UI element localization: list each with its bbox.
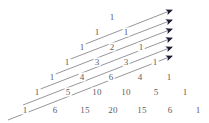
pascal-cell: 1 bbox=[152, 58, 159, 67]
pascal-cell: 1 bbox=[22, 106, 29, 115]
pascal-cell: 10 bbox=[91, 88, 102, 97]
pascal-cell: 3 bbox=[123, 58, 130, 67]
pascal-cell: 5 bbox=[153, 88, 160, 97]
pascals-triangle-figure: 111121133114641151010511615201561 bbox=[0, 0, 209, 123]
pascal-cell: 6 bbox=[167, 106, 174, 115]
pascal-cell: 4 bbox=[79, 73, 86, 82]
diagonal-arrow-2 bbox=[68, 20, 172, 60]
pascal-cell: 1 bbox=[109, 13, 116, 22]
pascal-cell: 1 bbox=[64, 58, 71, 67]
pascal-cell: 3 bbox=[94, 58, 101, 67]
pascal-cell: 6 bbox=[52, 106, 59, 115]
pascal-cell: 15 bbox=[79, 106, 90, 115]
pascal-cell: 1 bbox=[79, 43, 86, 52]
pascal-cell: 1 bbox=[166, 73, 173, 82]
pascal-cell: 20 bbox=[107, 106, 118, 115]
pascal-cell: 1 bbox=[138, 43, 145, 52]
pascal-cell: 15 bbox=[136, 106, 147, 115]
pascal-cell: 1 bbox=[94, 28, 101, 37]
pascal-cell: 1 bbox=[34, 88, 41, 97]
pascal-cell: 6 bbox=[108, 73, 115, 82]
pascal-cell: 1 bbox=[49, 73, 56, 82]
pascal-cell: 5 bbox=[65, 88, 72, 97]
pascal-cell: 1 bbox=[123, 28, 130, 37]
pascal-cell: 1 bbox=[182, 88, 189, 97]
pascal-cell: 2 bbox=[109, 43, 116, 52]
pascal-cell: 1 bbox=[195, 106, 202, 115]
pascal-cell: 4 bbox=[137, 73, 144, 82]
diagonal-arrow-3 bbox=[53, 29, 172, 75]
pascal-cell: 10 bbox=[120, 88, 131, 97]
fibonacci-diagonal-arrow-layer bbox=[0, 0, 209, 123]
